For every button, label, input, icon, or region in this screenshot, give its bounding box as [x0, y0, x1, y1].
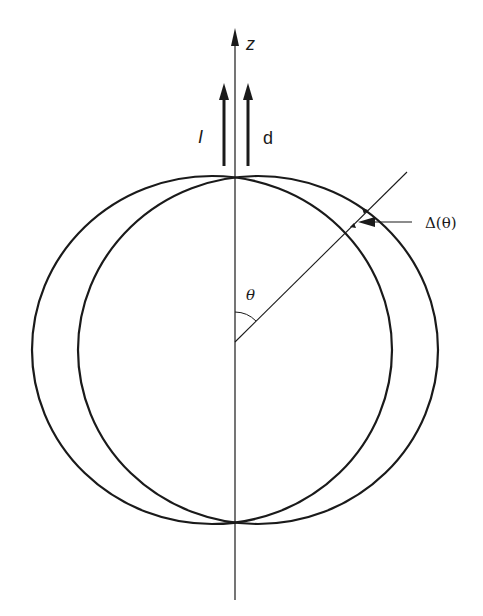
theta-arc	[235, 312, 256, 321]
z-axis-arrowhead-icon	[231, 28, 239, 46]
z-axis-label: z	[245, 34, 255, 54]
left-circle	[32, 176, 392, 524]
current-label: I	[198, 127, 203, 147]
right-circle	[78, 176, 438, 524]
diagram-canvas: z I d θ Δ(θ)	[0, 0, 483, 616]
theta-ray	[235, 172, 407, 342]
delta-label: Δ(θ)	[425, 214, 457, 232]
dipole-arrowhead-icon	[243, 83, 253, 100]
current-arrowhead-icon	[219, 83, 229, 100]
dipole-label: d	[263, 128, 273, 148]
theta-label: θ	[246, 286, 255, 304]
